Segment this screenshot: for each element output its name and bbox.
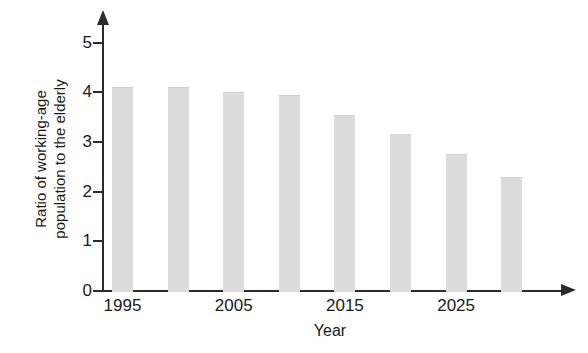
x-axis-tick-label: 2025 bbox=[421, 296, 491, 316]
y-axis-title: Ratio of working-age population to the e… bbox=[31, 29, 69, 289]
y-axis-arrow-icon bbox=[97, 10, 109, 25]
bar bbox=[168, 87, 189, 292]
bar bbox=[390, 134, 411, 292]
y-axis-line bbox=[102, 24, 104, 292]
y-axis-tick-mark bbox=[93, 240, 103, 242]
y-axis-tick-mark bbox=[93, 42, 103, 44]
bar bbox=[112, 87, 133, 292]
x-axis-arrow-icon bbox=[561, 284, 576, 296]
x-axis-tick-label: 2005 bbox=[199, 296, 269, 316]
bar bbox=[279, 95, 300, 292]
x-axis-tick-label: 1995 bbox=[88, 296, 158, 316]
bar bbox=[446, 154, 467, 292]
x-axis-tick-label: 2015 bbox=[310, 296, 380, 316]
bar-chart-figure: 012345 1995200520152025 Ratio of working… bbox=[0, 0, 588, 353]
x-axis-title: Year bbox=[275, 322, 385, 340]
bar bbox=[334, 115, 355, 292]
bar bbox=[501, 177, 522, 292]
y-axis-tick-mark bbox=[93, 191, 103, 193]
y-axis-tick-mark bbox=[93, 91, 103, 93]
y-axis-tick-mark bbox=[93, 290, 103, 292]
y-axis-tick-mark bbox=[93, 141, 103, 143]
bar bbox=[223, 92, 244, 292]
